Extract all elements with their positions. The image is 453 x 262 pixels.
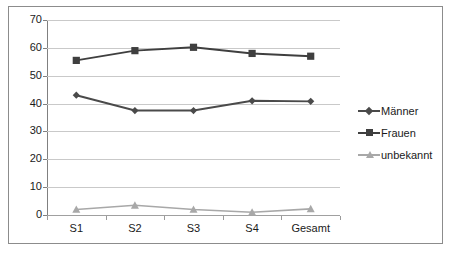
data-point-marker [73,92,80,99]
data-point-marker [249,50,256,57]
series-maenner [73,92,315,115]
legend-label: unbekannt [381,149,432,161]
data-point-marker [190,44,197,51]
legend-item: unbekannt [358,144,448,166]
legend-marker-square-icon [358,127,380,139]
legend-label: Frauen [381,127,416,139]
data-point-marker [190,107,197,114]
legend-marker-triangle-icon [358,149,380,161]
legend-item: Männer [358,100,448,122]
legend-item: Frauen [358,122,448,144]
legend-label: Männer [381,105,418,117]
chart-figure: 010203040506070 S1S2S3S4Gesamt MännerFra… [0,0,453,262]
data-point-marker [131,107,138,114]
data-point-marker [131,47,138,54]
data-point-marker [73,57,80,64]
series-frauen [73,44,315,64]
data-point-marker [249,97,256,104]
series-unbekannt [72,201,314,215]
legend-marker-diamond-icon [358,105,380,117]
data-point-marker [307,98,314,105]
data-point-marker [307,53,314,60]
chart-legend: MännerFrauenunbekannt [358,100,448,166]
